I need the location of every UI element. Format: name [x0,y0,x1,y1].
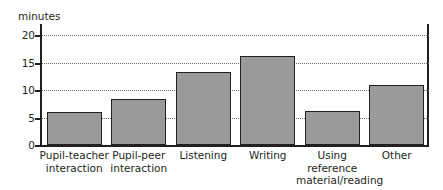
category-label-line: Pupil-teacher [38,149,111,162]
category-label: Usingreferencematerial/reading [296,149,369,187]
x-axis-line [40,145,429,147]
y-tick-mark [35,145,40,147]
bar-chart: minutes 05101520 Pupil-teacherinteractio… [0,0,443,190]
category-label-line: interaction [38,162,111,175]
bar [176,72,231,145]
category-label-line: Listening [167,149,240,162]
bar [47,112,102,145]
plot-area: 05101520 [40,24,429,147]
y-tick-label: 20 [22,30,35,41]
y-tick-label: 5 [28,112,35,123]
bar [305,111,360,145]
y-tick-label: 10 [22,85,35,96]
category-label: Pupil-teacherinteraction [38,149,111,174]
category-label-line: material/reading [296,174,369,187]
y-tick-label: 15 [22,57,35,68]
y-tick-mark [35,90,40,92]
category-label-line: interaction [103,162,176,175]
y-tick-mark [35,63,40,65]
category-label: Writing [232,149,305,162]
y-axis-unit-label: minutes [18,10,61,22]
category-label-line: Using [296,149,369,162]
bar [369,85,424,146]
bar-series [42,24,429,145]
x-axis-category-labels: Pupil-teacherinteractionPupil-peerintera… [42,149,429,190]
category-label: Listening [167,149,240,162]
bar [240,56,295,145]
category-label-line: Other [361,149,434,162]
category-label-line: reference [296,162,369,175]
y-tick-mark [35,35,40,37]
category-label: Other [361,149,434,162]
bar [111,99,166,145]
y-tick-label: 0 [28,140,35,151]
y-tick-mark [35,118,40,120]
category-label: Pupil-peerinteraction [103,149,176,174]
category-label-line: Pupil-peer [103,149,176,162]
category-label-line: Writing [232,149,305,162]
